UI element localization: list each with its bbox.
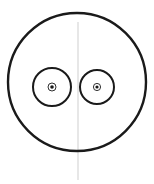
head-outline <box>8 13 146 151</box>
right-pupil <box>95 85 98 88</box>
left-eye <box>33 68 71 106</box>
right-eye <box>80 70 114 104</box>
left-pupil <box>50 85 54 89</box>
face-sketch <box>0 0 154 184</box>
drawing-canvas <box>0 0 154 184</box>
